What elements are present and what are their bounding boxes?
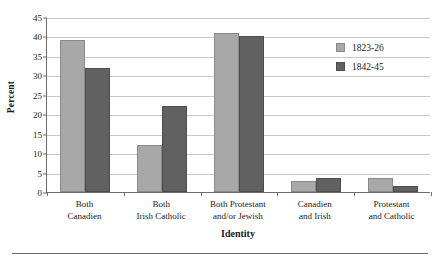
x-axis-title: Identity bbox=[46, 228, 430, 239]
bar bbox=[162, 106, 187, 192]
gridline bbox=[47, 18, 430, 19]
bar bbox=[239, 36, 264, 192]
x-tick-mark bbox=[431, 192, 432, 196]
x-tick-label-line: Canadien bbox=[276, 199, 353, 211]
bar bbox=[137, 145, 162, 192]
x-tick-label-line: and Catholic bbox=[353, 211, 430, 223]
bar bbox=[60, 40, 85, 192]
y-tick-mark bbox=[43, 76, 47, 77]
x-tick-label: BothIrish Catholic bbox=[123, 199, 200, 222]
bar bbox=[368, 178, 393, 192]
x-tick-label-line: and/or Jewish bbox=[200, 211, 277, 223]
x-tick-label: Both Protestantand/or Jewish bbox=[200, 199, 277, 222]
legend-label: 1823-26 bbox=[352, 43, 384, 53]
x-tick-label-line: and Irish bbox=[276, 211, 353, 223]
x-tick-mark bbox=[124, 192, 125, 196]
y-tick-mark bbox=[43, 56, 47, 57]
x-tick-mark bbox=[354, 192, 355, 196]
y-tick-mark bbox=[43, 173, 47, 174]
y-tick-label: 10 bbox=[33, 149, 42, 159]
y-tick-mark bbox=[43, 18, 47, 19]
x-tick-label-line: Protestant bbox=[353, 199, 430, 211]
bar bbox=[393, 186, 418, 192]
legend-label: 1842-45 bbox=[352, 62, 384, 72]
x-tick-label: BothCanadien bbox=[46, 199, 123, 222]
y-tick-label: 5 bbox=[38, 169, 43, 179]
y-tick-label: 45 bbox=[33, 13, 42, 23]
bar bbox=[316, 178, 341, 192]
x-tick-label-line: Both bbox=[123, 199, 200, 211]
bar bbox=[85, 68, 110, 192]
y-tick-label: 30 bbox=[33, 71, 42, 81]
y-tick-label: 15 bbox=[33, 130, 42, 140]
legend-swatch-icon bbox=[336, 62, 345, 71]
x-tick-label: Canadienand Irish bbox=[276, 199, 353, 222]
legend-item: 1823-26 bbox=[336, 38, 384, 57]
y-tick-label: 35 bbox=[33, 52, 42, 62]
x-tick-label: Protestantand Catholic bbox=[353, 199, 430, 222]
y-tick-mark bbox=[43, 37, 47, 38]
x-tick-label-line: Both bbox=[46, 199, 123, 211]
y-tick-label: 20 bbox=[33, 110, 42, 120]
x-tick-mark bbox=[47, 192, 48, 196]
figure: Percent 051015202530354045 BothCanadienB… bbox=[0, 0, 439, 272]
y-tick-mark bbox=[43, 154, 47, 155]
chart-legend: 1823-261842-45 bbox=[336, 38, 384, 76]
x-tick-label-line: Irish Catholic bbox=[123, 211, 200, 223]
y-tick-label: 40 bbox=[33, 32, 42, 42]
y-tick-label: 0 bbox=[38, 188, 43, 198]
x-tick-label-line: Both Protestant bbox=[200, 199, 277, 211]
y-tick-mark bbox=[43, 95, 47, 96]
y-tick-label: 25 bbox=[33, 91, 42, 101]
bar bbox=[291, 181, 316, 192]
x-tick-label-line: Canadien bbox=[46, 211, 123, 223]
bar bbox=[214, 33, 239, 192]
y-tick-mark bbox=[43, 134, 47, 135]
x-tick-mark bbox=[277, 192, 278, 196]
x-tick-mark bbox=[201, 192, 202, 196]
y-axis-title: Percent bbox=[6, 62, 16, 132]
legend-item: 1842-45 bbox=[336, 57, 384, 76]
footer-divider bbox=[12, 253, 428, 254]
y-tick-mark bbox=[43, 115, 47, 116]
legend-swatch-icon bbox=[336, 43, 345, 52]
